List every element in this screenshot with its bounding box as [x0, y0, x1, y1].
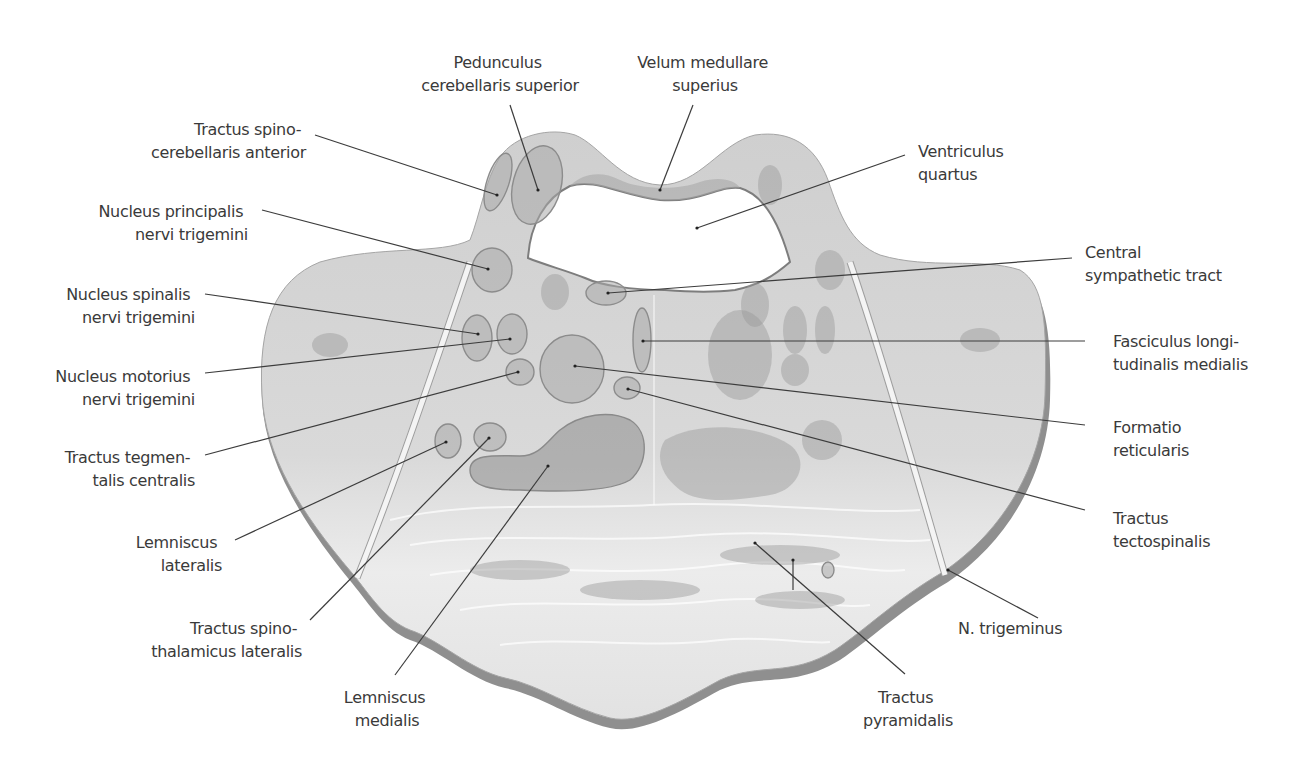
- label-fasciculus-longitudinalis-medialis: Fasciculus longi- tudinalis medialis: [1113, 332, 1248, 374]
- nucleus-spinalis-structure: [462, 315, 492, 361]
- leader-dot: [695, 226, 698, 229]
- label-tractus-pyramidalis: Tractus pyramidalis: [863, 688, 953, 730]
- leader-dot: [476, 332, 479, 335]
- label-nucleus-motorius-nervi-trigemini: Nucleus motorius nervi trigemini: [55, 367, 195, 409]
- label-lemniscus-medialis: Lemniscus medialis: [344, 688, 430, 730]
- pontine-nucleus-shade: [580, 580, 700, 600]
- label-formatio-reticularis: Formatio reticularis: [1113, 418, 1189, 460]
- tractus-pyramidalis-bundle: [822, 562, 834, 578]
- leader-dot: [444, 440, 447, 443]
- dark-spot: [781, 354, 809, 386]
- leader-dot: [753, 541, 756, 544]
- tractus-tegmentalis-centralis-structure: [506, 359, 534, 385]
- leader-dot: [626, 387, 629, 390]
- leader-dot: [487, 436, 490, 439]
- leader-dot: [641, 339, 644, 342]
- dark-spot: [708, 310, 772, 400]
- label-nucleus-spinalis-nervi-trigemini: Nucleus spinalis nervi trigemini: [66, 285, 195, 327]
- nucleus-motorius-structure: [497, 314, 527, 354]
- leader-dot: [546, 464, 549, 467]
- leader-dot: [658, 188, 661, 191]
- pontine-nucleus-shade: [755, 591, 845, 609]
- dark-spot: [783, 306, 807, 354]
- leader-dot: [495, 193, 498, 196]
- pons-cross-section-figure: Pedunculus cerebellaris superior Velum m…: [0, 0, 1301, 763]
- leader-dot: [536, 188, 539, 191]
- formatio-reticularis-structure: [540, 335, 604, 403]
- leader-dot: [516, 370, 519, 373]
- leader-tractus-spinocerebellaris-anterior: [315, 135, 497, 195]
- dark-spot: [815, 250, 845, 290]
- dark-spot: [541, 274, 569, 310]
- label-nucleus-principalis-nervi-trigemini: Nucleus principalis nervi trigemini: [98, 202, 248, 244]
- label-tractus-spinothalamicus-lateralis: Tractus spino- thalamicus lateralis: [151, 619, 302, 661]
- leader-dot: [946, 568, 949, 571]
- lemniscus-lateralis-structure: [435, 424, 461, 458]
- leader-dot: [791, 558, 794, 561]
- label-tractus-tectospinalis: Tractus tectospinalis: [1112, 509, 1210, 551]
- label-velum-medullare-superius: Velum medullare superius: [637, 53, 773, 95]
- leader-n-trigeminus: [948, 570, 1038, 618]
- leader-dot: [606, 291, 609, 294]
- leader-dot: [508, 337, 511, 340]
- dark-spot: [960, 328, 1000, 352]
- leader-dot: [486, 267, 489, 270]
- label-tractus-tegmentalis-centralis: Tractus tegmen- talis centralis: [64, 448, 195, 490]
- label-central-sympathetic-tract: Central sympathetic tract: [1085, 243, 1222, 285]
- label-tractus-spinocerebellaris-anterior: Tractus spino- cerebellaris anterior: [151, 120, 307, 162]
- nucleus-principalis-structure: [472, 248, 512, 292]
- label-ventriculus-quartus: Ventriculus quartus: [918, 142, 1008, 184]
- pons-tissue: [261, 132, 1050, 729]
- label-lemniscus-lateralis: Lemniscus lateralis: [136, 533, 222, 575]
- pontine-nucleus-shade: [720, 545, 840, 565]
- leader-dot: [573, 364, 576, 367]
- dark-spot: [312, 333, 348, 357]
- label-pedunculus-cerebellaris-superior: Pedunculus cerebellaris superior: [421, 53, 579, 95]
- central-sympathetic-tract-structure: [586, 281, 626, 305]
- label-n-trigeminus: N. trigeminus: [958, 619, 1062, 638]
- dark-spot: [815, 306, 835, 354]
- pontine-nucleus-shade: [470, 560, 570, 580]
